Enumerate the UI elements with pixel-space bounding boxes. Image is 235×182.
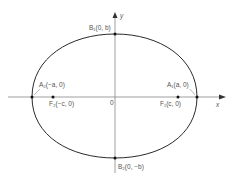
point-F2	[52, 96, 55, 99]
point-A1	[196, 96, 199, 99]
leader-A1	[190, 89, 195, 95]
diagram-canvas	[0, 0, 235, 182]
y-axis-label: y	[120, 13, 123, 20]
origin-label: 0	[110, 100, 114, 107]
leader-A2	[34, 89, 40, 95]
label-B1: B₁(0, b)	[89, 25, 111, 32]
label-A2: A₂(−a, 0)	[39, 82, 65, 89]
ellipse-diagram: y x 0 B₁(0, b) B₂(0, −b) A₁(a, 0) A₂(−a,…	[0, 0, 235, 182]
label-F1: F₁(c, 0)	[160, 101, 181, 108]
x-axis-arrow-icon	[219, 95, 226, 100]
point-B1	[114, 33, 117, 36]
y-axis-arrow-icon	[113, 12, 118, 18]
ellipse-curve	[32, 34, 197, 158]
point-F1	[177, 96, 180, 99]
label-B2: B₂(0, −b)	[118, 164, 144, 171]
x-axis-label: x	[216, 102, 219, 109]
point-A2	[31, 96, 34, 99]
label-F2: F₂(−c, 0)	[49, 101, 74, 108]
point-B2	[114, 157, 117, 160]
label-A1: A₁(a, 0)	[167, 82, 189, 89]
